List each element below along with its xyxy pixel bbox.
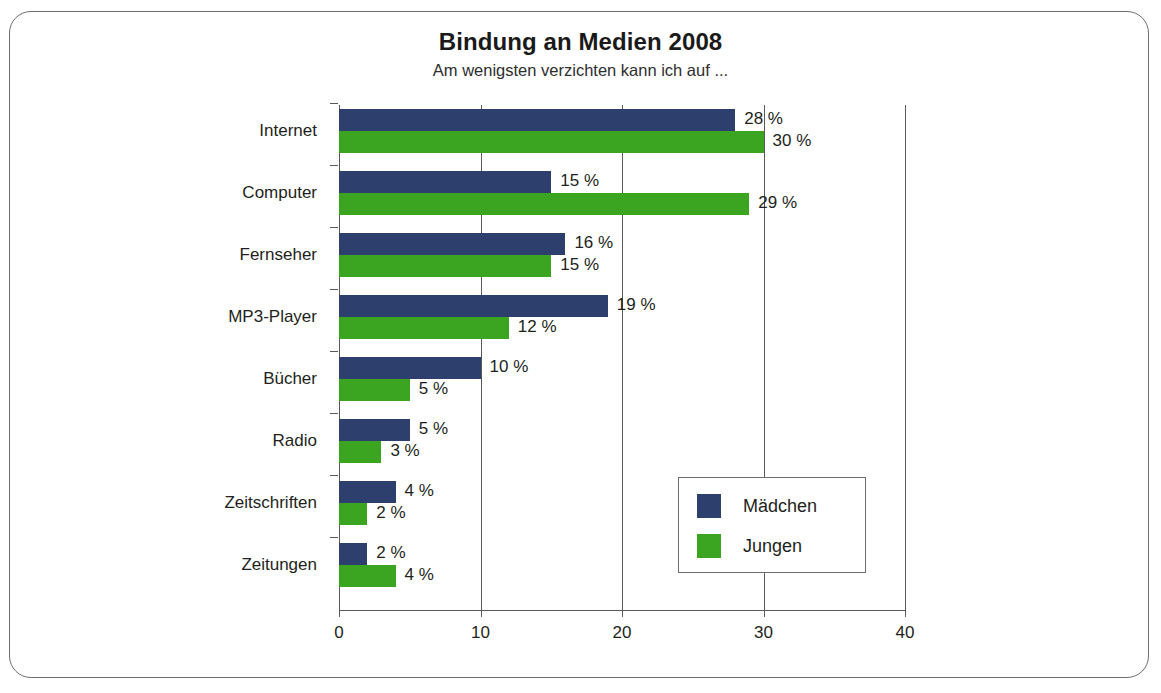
bar-boys xyxy=(339,131,764,153)
category-label: Computer xyxy=(57,183,317,203)
bar-girls xyxy=(339,295,608,317)
category-label: Bücher xyxy=(57,369,317,389)
x-tick-mark-10 xyxy=(481,610,482,617)
bar-girls xyxy=(339,109,735,131)
x-tick-label-10: 10 xyxy=(471,623,490,643)
y-tick-mark xyxy=(330,289,338,290)
bar-boys xyxy=(339,379,410,401)
chart-subtitle: Am wenigsten verzichten kann ich auf ... xyxy=(0,61,1161,80)
x-tick-label-40: 40 xyxy=(896,623,915,643)
bar-boys xyxy=(339,255,551,277)
x-tick-mark-40 xyxy=(905,610,906,617)
x-tick-label-30: 30 xyxy=(754,623,773,643)
category-label: MP3-Player xyxy=(57,307,317,327)
bar-value-label: 4 % xyxy=(405,565,434,585)
bar-value-label: 16 % xyxy=(574,233,613,253)
bar-value-label: 2 % xyxy=(376,503,405,523)
y-tick-mark xyxy=(330,351,338,352)
category-label: Zeitungen xyxy=(57,555,317,575)
y-tick-mark xyxy=(330,475,338,476)
bar-value-label: 3 % xyxy=(390,441,419,461)
bar-boys xyxy=(339,193,749,215)
chart-legend: Mädchen Jungen xyxy=(678,477,866,573)
y-tick-mark xyxy=(330,165,338,166)
bar-group: Bücher10 %5 % xyxy=(339,357,905,401)
bar-value-label: 2 % xyxy=(376,543,405,563)
chart-title: Bindung an Medien 2008 xyxy=(0,28,1161,56)
legend-item-boys: Jungen xyxy=(697,534,802,558)
bar-boys xyxy=(339,441,381,463)
category-label: Zeitschriften xyxy=(57,493,317,513)
bar-girls xyxy=(339,171,551,193)
bar-value-label: 29 % xyxy=(758,193,797,213)
bar-girls xyxy=(339,419,410,441)
legend-label-boys: Jungen xyxy=(743,536,802,557)
bar-value-label: 15 % xyxy=(560,255,599,275)
x-tick-label-0: 0 xyxy=(334,623,343,643)
y-tick-mark xyxy=(330,413,338,414)
legend-swatch-girls-icon xyxy=(697,494,721,518)
y-tick-mark xyxy=(330,537,338,538)
bar-value-label: 5 % xyxy=(419,379,448,399)
gridline-40 xyxy=(905,105,906,610)
bar-value-label: 4 % xyxy=(405,481,434,501)
category-label: Internet xyxy=(57,121,317,141)
bar-value-label: 12 % xyxy=(518,317,557,337)
bar-group: Computer15 %29 % xyxy=(339,171,905,215)
bar-boys xyxy=(339,503,367,525)
bar-value-label: 10 % xyxy=(490,357,529,377)
bar-group: Internet28 %30 % xyxy=(339,109,905,153)
x-tick-mark-0 xyxy=(339,610,340,617)
chart-page: Bindung an Medien 2008 Am wenigsten verz… xyxy=(0,0,1161,693)
bar-value-label: 15 % xyxy=(560,171,599,191)
bar-boys xyxy=(339,565,396,587)
bar-value-label: 28 % xyxy=(744,109,783,129)
bar-girls xyxy=(339,357,481,379)
y-tick-mark xyxy=(330,227,338,228)
bar-girls xyxy=(339,543,367,565)
x-tick-mark-30 xyxy=(764,610,765,617)
category-label: Radio xyxy=(57,431,317,451)
bar-girls xyxy=(339,233,565,255)
bar-group: Radio5 %3 % xyxy=(339,419,905,463)
bar-girls xyxy=(339,481,396,503)
legend-item-girls: Mädchen xyxy=(697,494,817,518)
bar-value-label: 19 % xyxy=(617,295,656,315)
bar-boys xyxy=(339,317,509,339)
bar-value-label: 30 % xyxy=(773,131,812,151)
bar-value-label: 5 % xyxy=(419,419,448,439)
legend-swatch-boys-icon xyxy=(697,534,721,558)
x-tick-mark-20 xyxy=(622,610,623,617)
x-tick-label-20: 20 xyxy=(613,623,632,643)
bar-group: MP3-Player19 %12 % xyxy=(339,295,905,339)
legend-label-girls: Mädchen xyxy=(743,496,817,517)
bar-group: Fernseher16 %15 % xyxy=(339,233,905,277)
category-label: Fernseher xyxy=(57,245,317,265)
y-tick-mark xyxy=(330,103,338,104)
